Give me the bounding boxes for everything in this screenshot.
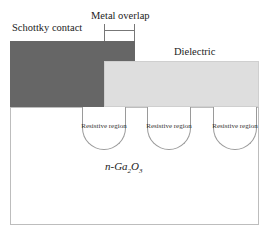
overlap-bracket-left bbox=[104, 24, 105, 41]
overlap-bracket-right bbox=[134, 24, 135, 41]
resistive-region-label: Resistive region bbox=[212, 122, 257, 130]
substrate-label: n-Ga2O3 bbox=[105, 160, 143, 175]
schottky-contact-label: Schottky contact bbox=[12, 22, 82, 33]
dielectric-label: Dielectric bbox=[174, 46, 215, 57]
resistive-region-2: Resistive region bbox=[147, 107, 191, 150]
overlap-bracket-line bbox=[104, 30, 135, 31]
dielectric-layer bbox=[104, 61, 259, 107]
resistive-region-3: Resistive region bbox=[213, 107, 257, 150]
resistive-region-label: Resistive region bbox=[146, 122, 191, 130]
resistive-region-label: Resistive region bbox=[81, 122, 126, 130]
metal-overlap-label: Metal overlap bbox=[91, 10, 150, 21]
resistive-region-1: Resistive region bbox=[82, 107, 126, 150]
